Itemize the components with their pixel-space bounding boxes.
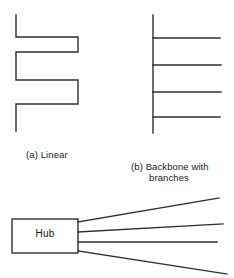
hub-link-line — [78, 198, 219, 222]
hub-link-line — [78, 224, 223, 232]
hub-box-label: Hub — [12, 228, 78, 239]
caption-backbone-line1: (b) Backbone with — [131, 161, 209, 172]
caption-backbone-line2: branches — [131, 172, 231, 184]
caption-linear: (a) Linear — [26, 149, 122, 161]
hub-link-line — [78, 251, 227, 274]
network-topology-figure: Hub (a) Linear (b) Backbone with branche… — [0, 0, 234, 278]
backbone-topology-group — [153, 15, 221, 133]
linear-topology-group — [16, 15, 78, 131]
linear-bus-polyline — [16, 15, 78, 131]
caption-backbone: (b) Backbone with branches — [131, 149, 231, 195]
